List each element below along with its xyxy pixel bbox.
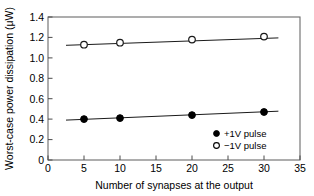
y-tick-label-0: 0 [38,154,44,166]
y-tick-label-0-6: 0.6 [29,93,44,105]
data-point-minus1v-x20 [189,36,196,43]
legend-open-circle-icon [214,143,220,149]
x-tick-label-0: 0 [45,162,51,174]
x-tick-label-35: 35 [294,162,306,174]
y-tick-label-0-2: 0.2 [29,133,44,145]
x-tick-label-5: 5 [81,162,87,174]
x-axis-title: Number of synapses at the output [95,179,253,191]
y-axis-tick-labels: 0 0.2 0.4 0.6 0.8 1.0 1.2 1.4 [29,11,44,166]
y-tick-label-1-2: 1.2 [29,31,44,43]
y-tick-label-0-4: 0.4 [29,113,44,125]
y-tick-label-1-0: 1.0 [29,52,44,64]
x-axis-tick-labels: 0 5 10 15 20 25 30 35 [45,162,306,174]
legend-label-minus-1v: −1V pulse [224,140,267,151]
x-tick-label-20: 20 [186,162,198,174]
figure-container: 0 0.2 0.4 0.6 0.8 1.0 1.2 1.4 0 5 10 15 [0,0,314,196]
data-point-plus1v-x10 [117,115,124,122]
legend-filled-circle-icon [214,131,220,137]
data-point-minus1v-x5 [81,41,88,48]
x-tick-label-10: 10 [114,162,126,174]
data-point-plus1v-x5 [81,116,88,123]
y-tick-label-0-8: 0.8 [29,72,44,84]
power-dissipation-chart: 0 0.2 0.4 0.6 0.8 1.0 1.2 1.4 0 5 10 15 [0,0,314,196]
legend-label-plus-1v: +1V pulse [224,128,267,139]
data-point-plus1v-x30 [261,109,268,116]
y-tick-label-1-4: 1.4 [29,11,44,23]
x-tick-label-15: 15 [150,162,162,174]
y-axis-title: Worst-case power dissipation (μW) [3,7,15,170]
x-tick-label-25: 25 [222,162,234,174]
data-point-plus1v-x20 [189,112,196,119]
data-point-minus1v-x30 [261,33,268,40]
x-tick-label-30: 30 [258,162,270,174]
data-point-minus1v-x10 [117,39,124,46]
